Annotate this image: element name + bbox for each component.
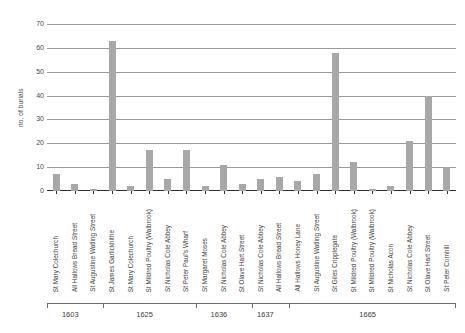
- y-axis-tick-label: 40: [22, 92, 44, 99]
- category-label: St Margaret Moses: [201, 238, 209, 292]
- x-axis-tick: [75, 191, 76, 194]
- year-axis-endcap: [455, 303, 456, 308]
- category-label: St Olave Hart Street: [424, 235, 432, 292]
- year-axis-tick: [196, 303, 197, 308]
- x-axis-tick: [224, 191, 225, 194]
- bar: [53, 174, 60, 191]
- year-axis: [47, 303, 456, 311]
- y-axis-tick-label: 30: [22, 115, 44, 122]
- category-label: St Nicholas Cole Abbey: [257, 225, 265, 292]
- x-axis-tick: [391, 191, 392, 194]
- y-axis-tick-label: 50: [22, 68, 44, 75]
- bar: [220, 165, 227, 191]
- category-label: St Peter Paul's Wharf: [182, 231, 190, 292]
- bar: [350, 162, 357, 191]
- category-axis-labels: St Mary ColechurchAll Hallows Bread Stre…: [47, 196, 456, 292]
- bar: [183, 150, 190, 191]
- x-axis-tick: [56, 191, 57, 194]
- bar: [257, 179, 264, 191]
- category-label: All Hallows Bread Street: [71, 223, 79, 292]
- bar: [239, 184, 246, 191]
- x-axis-tick: [168, 191, 169, 194]
- x-axis-tick: [298, 191, 299, 194]
- bar: [313, 174, 320, 191]
- y-axis-tick-label: 60: [22, 44, 44, 51]
- year-axis-label: 1603: [62, 310, 79, 319]
- x-axis-tick: [428, 191, 429, 194]
- category-label: St Mary Colechurch: [127, 236, 135, 292]
- y-axis-tick-label: 70: [22, 20, 44, 27]
- x-axis-tick: [242, 191, 243, 194]
- x-axis-tick: [354, 191, 355, 194]
- bar: [443, 167, 450, 191]
- x-axis-tick: [149, 191, 150, 194]
- bar-chart: no. of burials 010203040506070 St Mary C…: [0, 0, 465, 333]
- year-axis-label: 1637: [257, 310, 274, 319]
- year-axis-tick: [289, 303, 290, 308]
- x-axis-tick: [410, 191, 411, 194]
- y-axis-tick-label: 20: [22, 139, 44, 146]
- bar: [276, 177, 283, 191]
- x-axis-tick: [93, 191, 94, 194]
- category-label: St Nicholas Cole Abbey: [220, 225, 228, 292]
- category-label: St James Garlickhithe: [108, 230, 116, 292]
- year-axis-label: 1665: [359, 310, 376, 319]
- x-axis-tick: [205, 191, 206, 194]
- category-label: St Nicholas Acon: [387, 244, 395, 292]
- x-axis-tick: [186, 191, 187, 194]
- x-axis-tick: [317, 191, 318, 194]
- category-label: St Mary Colechurch: [52, 236, 60, 292]
- year-axis-tick: [252, 303, 253, 308]
- bar: [406, 141, 413, 191]
- bar: [146, 150, 153, 191]
- x-axis-tick: [335, 191, 336, 194]
- category-label: All Hallows Honey Lane: [294, 224, 302, 292]
- bars-layer: [47, 24, 456, 191]
- x-axis-tick: [131, 191, 132, 194]
- x-axis-tick: [112, 191, 113, 194]
- category-label: St Augustine Watling Street: [89, 214, 97, 292]
- category-label: All Hallows Bread Street: [275, 223, 283, 292]
- bar: [332, 53, 339, 191]
- category-label: St Augustine Watling Street: [313, 214, 321, 292]
- bar: [109, 41, 116, 191]
- category-label: St Mildred Poultry (Walbrook): [368, 209, 376, 292]
- category-label: St Giles Cripplegate: [331, 235, 339, 292]
- year-axis-tick: [103, 303, 104, 308]
- category-label: St Nicholas Cole Abbey: [406, 225, 414, 292]
- bar: [425, 96, 432, 191]
- category-label: St Nicholas Cole Abbey: [164, 225, 172, 292]
- year-axis-label: 1625: [136, 310, 153, 319]
- year-axis-endcap: [47, 303, 48, 308]
- category-label: St Peter Cornhill: [443, 245, 451, 292]
- category-label: St Mildred Poultry (Walbrook): [350, 209, 358, 292]
- x-axis-tick: [372, 191, 373, 194]
- bar: [294, 181, 301, 191]
- bar: [71, 184, 78, 191]
- y-axis-tick-labels: 010203040506070: [18, 0, 44, 333]
- category-label: St Olave Hart Street: [238, 235, 246, 292]
- x-axis-tick: [261, 191, 262, 194]
- x-axis-tick: [279, 191, 280, 194]
- y-axis-tick-label: 10: [22, 163, 44, 170]
- category-label: St Mildred Poultry (Walbrook): [145, 209, 153, 292]
- y-axis-tick-label: 0: [22, 187, 44, 194]
- bar: [164, 179, 171, 191]
- year-axis-label: 1636: [211, 310, 228, 319]
- x-axis-tick: [447, 191, 448, 194]
